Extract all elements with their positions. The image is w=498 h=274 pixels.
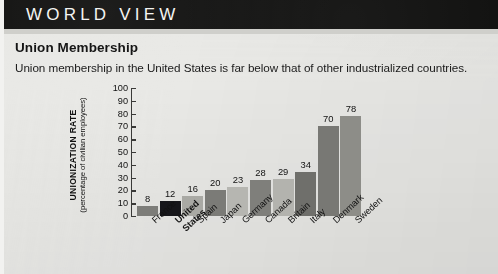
- bar-value-label: 20: [210, 178, 220, 188]
- bar-chart: UNIONIZATION RATE (percentage of civilia…: [0, 0, 498, 274]
- bar-value-label: 70: [323, 114, 333, 124]
- y-tick-label: 70: [118, 122, 128, 131]
- y-tick-label: 20: [118, 186, 128, 195]
- bar-value-label: 8: [145, 194, 150, 204]
- banner-title: WORLD VIEW: [26, 5, 179, 25]
- y-tick-label: 0: [123, 212, 128, 221]
- world-view-figure: WORLD VIEW Union Membership Union member…: [0, 0, 498, 274]
- bar-value-label: 78: [346, 104, 356, 114]
- y-tick-label: 80: [118, 109, 128, 118]
- y-tick-label: 90: [118, 96, 128, 105]
- y-axis-tick-labels: 0102030405060708090100: [104, 86, 128, 216]
- bar-value-label: 28: [255, 168, 265, 178]
- y-tick-label: 60: [118, 135, 128, 144]
- y-tick-label: 100: [113, 84, 128, 93]
- y-axis-title: UNIONIZATION RATE (percentage of civilia…: [68, 90, 88, 220]
- bar-value-label: 29: [278, 167, 288, 177]
- y-axis-title-line1: UNIONIZATION RATE: [68, 90, 78, 220]
- y-tick-label: 40: [118, 160, 128, 169]
- y-tick-label: 10: [118, 199, 128, 208]
- bar: 70: [318, 126, 339, 216]
- x-axis-category-labels: FranceUnitedStatesSpainJapanGermanyCanad…: [133, 218, 373, 274]
- bars-container: 8121620232829347078: [133, 88, 363, 216]
- y-axis-title-line2: (percentage of civilian employees): [78, 90, 87, 220]
- world-view-banner: WORLD VIEW: [4, 0, 498, 29]
- bar-value-label: 16: [187, 184, 197, 194]
- banner-underline: [4, 29, 498, 34]
- bar-value-label: 34: [300, 160, 310, 170]
- bar-value-label: 12: [165, 189, 175, 199]
- y-tick-label: 30: [118, 173, 128, 182]
- bar-value-label: 23: [233, 175, 243, 185]
- y-tick-label: 50: [118, 148, 128, 157]
